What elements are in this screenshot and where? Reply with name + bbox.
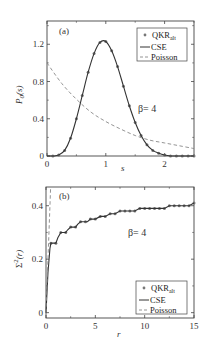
legend-marker-icon: [144, 34, 147, 37]
y-tick-label: 0.8: [33, 77, 45, 87]
panel-a-beta-annotation: β= 4: [138, 103, 156, 114]
panel-b-beta-annotation: β= 4: [128, 227, 146, 238]
y-tick-label: 1.2: [33, 39, 44, 49]
svg-text:Poisson: Poisson: [151, 52, 178, 62]
x-tick-label: 0: [45, 159, 50, 169]
x-tick-label: 1: [104, 159, 109, 169]
panel-a-label: (a): [59, 26, 69, 36]
x-tick-label: 10: [140, 321, 150, 331]
x-tick-label: 2: [162, 159, 167, 169]
panel-a: 01200.40.81.2 (a) β= 4 s P0(s) QKRalt CS…: [14, 21, 196, 173]
x-tick-label: 5: [93, 321, 98, 331]
panel-b-label: (b): [59, 191, 70, 201]
panel-b-legend: QKRalt CSE Poisson: [136, 281, 187, 315]
y-tick-label: 0.2: [32, 254, 43, 264]
panel-a-legend: QKRalt CSE Poisson: [137, 28, 187, 62]
panel-b: 05101500.20.4 (b) β= 4 r Σ2(r) QKRalt CS…: [12, 187, 199, 339]
svg-text:CSE: CSE: [151, 42, 167, 52]
svg-text:CSE: CSE: [150, 295, 166, 305]
y-tick-label: 0.4: [33, 114, 45, 124]
y-tick-label: 0: [40, 151, 45, 161]
svg-text:Σ2(r): Σ2(r): [12, 250, 24, 268]
y-tick-label: 0.4: [32, 201, 44, 211]
svg-text:P0(s): P0(s): [14, 86, 26, 106]
x-tick-label: 15: [190, 321, 200, 331]
panel-b-x-axis-label: r: [117, 329, 121, 339]
svg-text:Poisson: Poisson: [150, 305, 177, 315]
legend-marker-icon: [143, 287, 146, 290]
panel-b-y-axis-label: Σ2(r): [12, 250, 24, 268]
figure: 01200.40.81.2 (a) β= 4 s P0(s) QKRalt CS…: [0, 0, 208, 356]
panel-a-x-axis-label: s: [121, 163, 125, 173]
panel-a-y-axis-label: P0(s): [14, 86, 26, 106]
x-tick-label: 0: [44, 321, 49, 331]
y-tick-label: 0: [39, 308, 44, 318]
